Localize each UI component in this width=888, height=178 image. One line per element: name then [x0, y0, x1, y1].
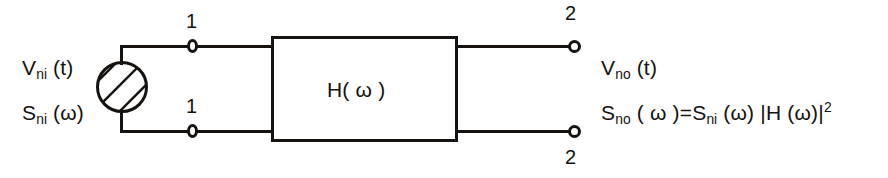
output-voltage-argument: (t) — [631, 56, 657, 79]
output-psd-equals-part: ( ω )=S — [631, 101, 707, 124]
output-terminal-bottom — [568, 125, 581, 138]
input-voltage-symbol: V — [22, 56, 36, 79]
circuit-diagram-canvas: Vni (t) Sni (ω) 1 1 H( ω ) 2 2 Vno — [0, 0, 888, 178]
port-label-input-top: 1 — [186, 10, 197, 33]
input-terminal-bottom — [187, 124, 198, 138]
noise-source-symbol — [95, 60, 149, 114]
output-terminal-top — [568, 40, 581, 53]
output-psd-subscript: no — [615, 111, 630, 127]
output-top-wire — [456, 45, 574, 48]
output-psd-exponent: 2 — [824, 99, 832, 115]
input-terminal-top — [187, 39, 198, 53]
port-label-input-bottom: 1 — [186, 95, 197, 118]
output-psd-symbol: S — [601, 101, 615, 124]
input-psd-argument: (ω) — [47, 101, 84, 124]
input-psd-subscript: ni — [36, 111, 47, 127]
port-label-output-top: 2 — [565, 2, 576, 25]
output-bottom-wire — [456, 130, 574, 133]
input-voltage-subscript: ni — [36, 66, 47, 82]
source-bottom-lead — [120, 110, 123, 132]
output-voltage-subscript: no — [615, 66, 630, 82]
input-voltage-argument: (t) — [47, 56, 73, 79]
output-psd-subscript-2: ni — [706, 111, 717, 127]
input-psd-symbol: S — [22, 101, 36, 124]
transfer-function-label: H( ω ) — [327, 78, 385, 102]
output-voltage-label: Vno (t) — [601, 56, 657, 80]
output-psd-magnitude-part: (ω) |H (ω)| — [717, 101, 824, 124]
input-psd-label: Sni (ω) — [22, 101, 84, 125]
output-psd-equation: Sno ( ω )=Sni (ω) |H (ω)|2 — [601, 101, 832, 125]
output-voltage-symbol: V — [601, 56, 615, 79]
input-voltage-label: Vni (t) — [22, 56, 73, 80]
source-top-lead — [120, 45, 123, 65]
port-label-output-bottom: 2 — [565, 146, 576, 169]
